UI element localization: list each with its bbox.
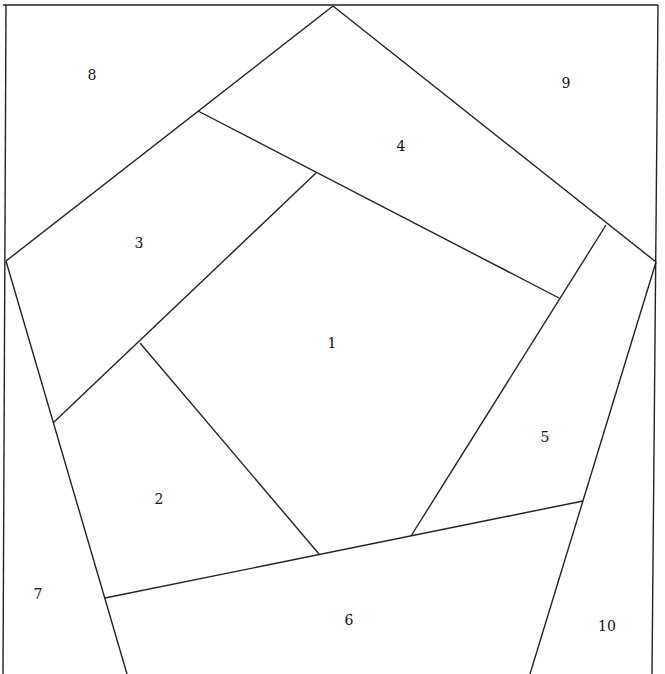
edge-line [198, 111, 559, 298]
edge-line [3, 5, 6, 674]
region-label-1: 1 [328, 335, 337, 351]
edge-line [652, 5, 658, 674]
region-label-6: 6 [345, 612, 354, 628]
diagram-canvas: 89431527610 [0, 0, 665, 674]
region-label-2: 2 [155, 491, 164, 507]
edge-line [6, 261, 127, 674]
region-label-9: 9 [562, 75, 571, 91]
edge-line [333, 6, 656, 262]
region-label-10: 10 [598, 618, 616, 634]
region-label-7: 7 [34, 586, 43, 602]
region-label-5: 5 [541, 429, 550, 445]
region-label-4: 4 [397, 138, 406, 154]
region-label-3: 3 [135, 235, 144, 251]
edge-line [140, 343, 319, 554]
edge-line [530, 262, 656, 674]
region-label-8: 8 [88, 67, 97, 83]
edge-line [6, 6, 333, 261]
edge-line [53, 173, 316, 423]
edge-line [105, 501, 583, 598]
